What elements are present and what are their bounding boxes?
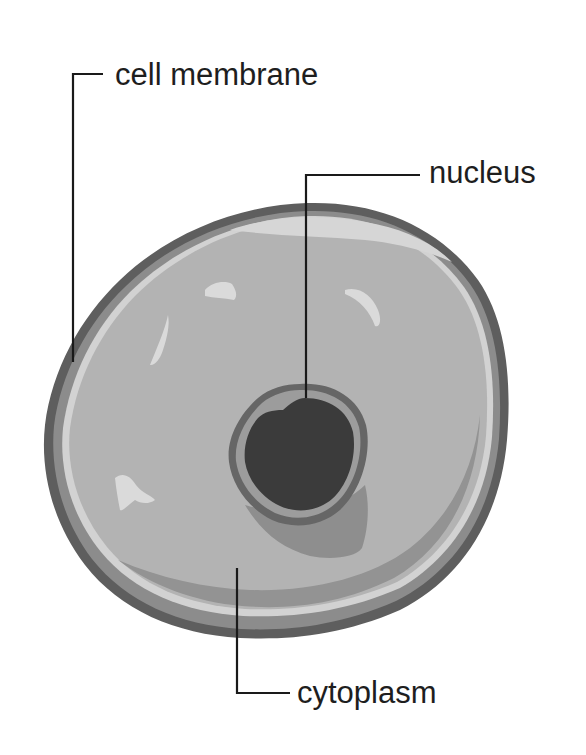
label-cell-membrane: cell membrane: [115, 57, 318, 92]
label-cytoplasm: cytoplasm: [297, 675, 437, 710]
cell-diagram: cell membrane nucleus cytoplasm: [0, 0, 586, 755]
label-nucleus: nucleus: [429, 155, 536, 190]
